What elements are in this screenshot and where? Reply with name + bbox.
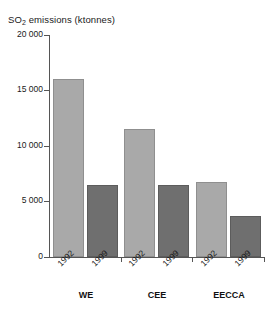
bar-we-1999 bbox=[87, 185, 118, 257]
y-tick-mark-20000 bbox=[44, 35, 49, 36]
bar-cee-1992 bbox=[124, 129, 155, 257]
y-tick-label-0: 0 bbox=[38, 252, 43, 261]
y-tick-label-5000: 5 000 bbox=[22, 196, 43, 205]
x-group-separator-tick-3 bbox=[264, 258, 265, 262]
x-group-label-eecca: EECCA bbox=[193, 290, 265, 300]
bar-we-1992 bbox=[53, 79, 84, 257]
y-tick-mark-0 bbox=[44, 257, 49, 258]
y-tick-label-15000: 15 000 bbox=[17, 85, 43, 94]
x-group-label-cee: CEE bbox=[121, 290, 193, 300]
bar-cee-1999 bbox=[158, 185, 189, 257]
y-tick-mark-5000 bbox=[44, 201, 49, 202]
y-tick-label-10000: 10 000 bbox=[17, 141, 43, 150]
y-axis-line bbox=[49, 35, 50, 258]
x-axis-line bbox=[49, 257, 265, 258]
y-tick-label-20000: 20 000 bbox=[17, 30, 43, 39]
x-group-separator-tick-1 bbox=[121, 258, 122, 262]
x-group-label-we: WE bbox=[50, 290, 122, 300]
y-tick-mark-10000 bbox=[44, 146, 49, 147]
bar-eecca-1992 bbox=[196, 182, 227, 257]
x-group-separator-tick-2 bbox=[192, 258, 193, 262]
plot-area: 20 000 15 000 10 000 5 000 0 1992 1999 1… bbox=[0, 0, 276, 311]
y-tick-mark-15000 bbox=[44, 90, 49, 91]
so2-emissions-bar-chart: SO2 emissions (ktonnes) 20 000 15 000 10… bbox=[0, 0, 276, 311]
